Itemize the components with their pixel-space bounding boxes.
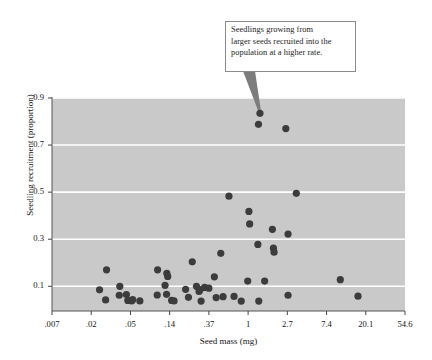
data-point <box>116 283 123 290</box>
data-point <box>129 296 136 303</box>
data-point <box>337 276 344 283</box>
scatter-plot-canvas <box>0 0 432 360</box>
data-point <box>269 226 276 233</box>
x-tick-label-3: .14 <box>150 319 190 329</box>
y-tick-label-1: 0.7 <box>10 139 44 149</box>
plot-background <box>52 98 405 311</box>
annotation-line-1: Seedlings growing from <box>231 24 355 36</box>
data-point <box>182 286 189 293</box>
data-point <box>136 297 143 304</box>
data-point <box>163 291 170 298</box>
data-point <box>217 250 224 257</box>
x-tick-label-0: .007 <box>32 319 72 329</box>
data-point <box>225 193 232 200</box>
x-axis-title: Seed mass (mg) <box>52 336 405 346</box>
data-point <box>189 258 196 265</box>
y-axis-title: Seedling recruitment (proportion) <box>25 55 35 255</box>
data-point <box>244 278 251 285</box>
x-tick-label-8: 20.1 <box>346 319 386 329</box>
data-point <box>245 208 252 215</box>
data-point <box>270 249 277 256</box>
y-tick-label-2: 0.5 <box>10 186 44 196</box>
y-tick-label-0: 0.9 <box>10 92 44 102</box>
x-tick-label-7: 7.4 <box>307 319 347 329</box>
data-point <box>284 292 291 299</box>
data-point <box>211 273 218 280</box>
data-point <box>284 230 291 237</box>
data-point <box>116 292 123 299</box>
data-point <box>161 282 168 289</box>
x-tick-label-6: 2.7 <box>267 319 307 329</box>
x-tick-label-2: .05 <box>110 319 150 329</box>
data-point <box>170 297 177 304</box>
data-point <box>230 293 237 300</box>
data-point <box>293 190 300 197</box>
data-point <box>255 121 262 128</box>
data-point <box>205 285 212 292</box>
data-point <box>103 266 110 273</box>
data-point <box>102 296 109 303</box>
x-tick-label-4: .37 <box>189 319 229 329</box>
data-point <box>254 241 261 248</box>
y-tick-label-3: 0.3 <box>10 233 44 243</box>
data-point <box>246 220 253 227</box>
data-point <box>213 294 220 301</box>
data-point <box>219 293 226 300</box>
x-tick-label-1: .02 <box>71 319 111 329</box>
data-point <box>255 298 262 305</box>
annotation-callout-text: Seedlings growing from larger seeds recr… <box>231 24 355 59</box>
x-tick-label-5: 1 <box>228 319 268 329</box>
x-tick-label-9: 54.6 <box>385 319 425 329</box>
data-point <box>164 273 171 280</box>
annotation-line-3: population at a higher rate. <box>231 47 355 59</box>
chart-figure: Seedlings growing from larger seeds recr… <box>0 0 432 360</box>
data-point <box>256 110 263 117</box>
data-point <box>96 286 103 293</box>
data-point <box>197 298 204 305</box>
data-point <box>261 278 268 285</box>
data-point <box>238 298 245 305</box>
data-point <box>154 291 161 298</box>
y-tick-label-4: 0.1 <box>10 280 44 290</box>
data-point <box>282 125 289 132</box>
data-point <box>185 294 192 301</box>
data-point <box>154 266 161 273</box>
data-point <box>354 293 361 300</box>
annotation-line-2: larger seeds recruited into the <box>231 36 355 48</box>
